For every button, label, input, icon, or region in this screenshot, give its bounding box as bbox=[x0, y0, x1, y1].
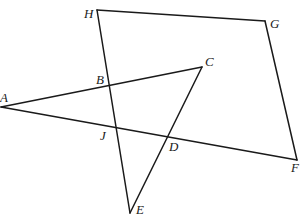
segment-HG bbox=[97, 10, 265, 21]
segment-CE bbox=[130, 67, 202, 213]
point-label-C: C bbox=[205, 54, 214, 69]
segments bbox=[1, 10, 297, 213]
segment-HE bbox=[97, 10, 130, 213]
labels: HGCBAJDFE bbox=[0, 6, 300, 215]
point-label-J: J bbox=[100, 128, 107, 143]
point-label-A: A bbox=[0, 90, 8, 105]
segment-GF bbox=[265, 21, 297, 160]
segment-AF bbox=[1, 107, 297, 160]
geometry-diagram: HGCBAJDFE bbox=[0, 0, 304, 215]
point-label-D: D bbox=[168, 139, 179, 154]
point-label-F: F bbox=[290, 160, 300, 175]
point-label-E: E bbox=[135, 202, 144, 215]
point-label-H: H bbox=[83, 6, 94, 21]
point-label-B: B bbox=[96, 72, 104, 87]
point-label-G: G bbox=[270, 16, 280, 31]
